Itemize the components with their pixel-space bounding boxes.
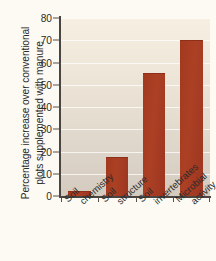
y-axis-tick-label: 60 — [41, 57, 52, 68]
y-axis-line — [59, 16, 61, 198]
y-axis-tick-label: 40 — [41, 102, 52, 113]
y-axis-tick-label: 30 — [41, 124, 52, 135]
y-axis-tick-label: 80 — [41, 13, 52, 24]
chart-figure: Percentage increase over conventional pl… — [0, 0, 216, 261]
y-axis-tick-label: 50 — [41, 79, 52, 90]
y-axis-tick-label: 10 — [41, 168, 52, 179]
x-axis-category-labels: SoilchemistrySoilstructureSoilinvertebra… — [0, 196, 216, 261]
y-axis-tick-label: 20 — [41, 146, 52, 157]
y-axis-tick-label: 70 — [41, 35, 52, 46]
y-axis-tick-labels: 01020304050607080 — [30, 18, 52, 196]
